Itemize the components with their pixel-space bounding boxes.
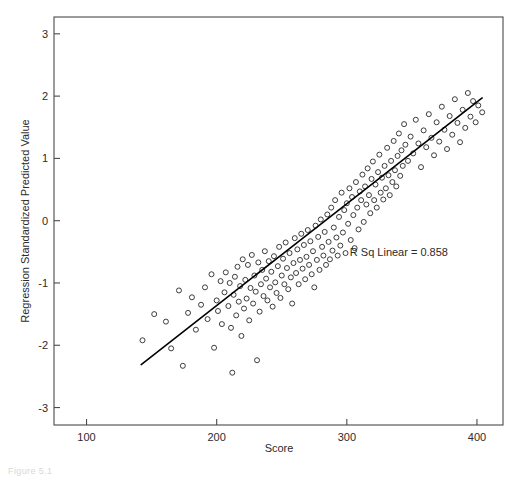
y-tick-label: -2: [38, 339, 48, 351]
x-axis-title: Score: [265, 442, 294, 454]
y-tick-label: 1: [42, 152, 48, 164]
x-tick-label: 100: [77, 431, 95, 443]
figure-caption: Figure 5.1: [8, 466, 53, 476]
y-axis-title: Regression Standardized Predicted Value: [19, 119, 31, 322]
y-tick-label: 2: [42, 90, 48, 102]
r-squared-annotation: R Sq Linear = 0.858: [350, 246, 448, 258]
x-tick-label: 300: [338, 431, 356, 443]
x-tick-label: 400: [468, 431, 486, 443]
x-tick-label: 200: [208, 431, 226, 443]
annotation-text: R Sq Linear = 0.858: [350, 246, 448, 258]
y-tick-label: -1: [38, 277, 48, 289]
y-tick-label: -3: [38, 402, 48, 414]
figure-background: [0, 0, 527, 483]
scatterplot: 100200300400 -3-2-10123 R Sq Linear = 0.…: [0, 0, 527, 483]
figure-container: 100200300400 -3-2-10123 R Sq Linear = 0.…: [0, 0, 527, 483]
y-tick-label: 3: [42, 28, 48, 40]
y-tick-label: 0: [42, 215, 48, 227]
